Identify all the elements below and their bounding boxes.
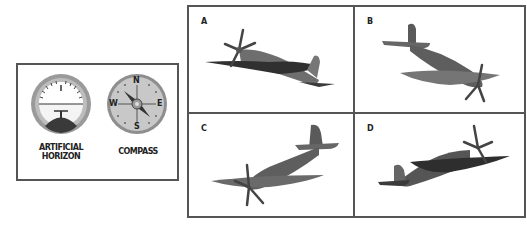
- airplane-icon: [370, 15, 515, 105]
- instrument-legend-box: ARTIFICIAL HORIZON N E S W COMPASS: [16, 63, 179, 181]
- option-b[interactable]: B: [355, 7, 526, 112]
- compass-dial: N E S W: [106, 73, 168, 135]
- artificial-horizon-icon: [30, 73, 92, 135]
- option-c[interactable]: C: [189, 114, 353, 216]
- artificial-horizon-label: ARTIFICIAL HORIZON: [21, 143, 101, 161]
- airplane-icon: [370, 122, 515, 202]
- label-line-1: ARTIFICIAL: [21, 143, 101, 152]
- airplane-icon: [199, 22, 339, 102]
- label-line-2: HORIZON: [21, 152, 101, 161]
- compass-east: E: [157, 99, 162, 108]
- artificial-horizon-dial: [30, 73, 92, 135]
- compass-south: S: [134, 122, 140, 131]
- answer-options-grid: A B C: [187, 5, 526, 218]
- compass-west: W: [109, 99, 118, 108]
- compass-label: COMPASS: [98, 147, 178, 156]
- airplane-icon: [199, 119, 344, 209]
- option-d[interactable]: D: [355, 114, 526, 216]
- compass-north: N: [133, 76, 140, 85]
- option-a[interactable]: A: [189, 7, 353, 112]
